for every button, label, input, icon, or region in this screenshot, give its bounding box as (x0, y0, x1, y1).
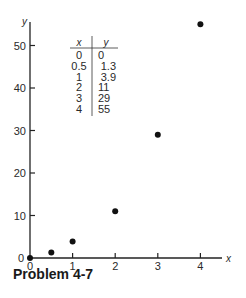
x-tick-label: 2 (112, 260, 118, 270)
y-tick-label: 0 (18, 252, 24, 264)
inset-data-table: xy000.51.313.9211329455 (70, 36, 118, 116)
data-point (197, 21, 203, 27)
data-point (70, 238, 76, 244)
x-axis-label: x (225, 253, 232, 264)
table-cell-x: 4 (76, 103, 82, 115)
y-tick-label: 30 (14, 125, 26, 137)
y-axis-label: y (21, 16, 28, 27)
x-tick-label: 4 (197, 260, 203, 270)
data-point (27, 255, 33, 261)
data-point (48, 249, 54, 255)
axes: yx0102030405001234 (14, 16, 232, 270)
data-point (112, 208, 118, 214)
scatter-plot: yx0102030405001234 xy000.51.313.92113294… (0, 0, 246, 270)
y-tick-label: 50 (14, 40, 26, 52)
y-tick-label: 20 (14, 167, 26, 179)
data-point (155, 132, 161, 138)
figure-caption: Problem 4-7 (13, 266, 93, 282)
data-points (27, 21, 203, 261)
table-header-x: x (76, 37, 83, 48)
table-header-y: y (103, 37, 110, 48)
y-tick-label: 10 (14, 210, 26, 222)
x-tick-label: 3 (155, 260, 161, 270)
y-tick-label: 40 (14, 82, 26, 94)
table-cell-y: 55 (98, 103, 110, 115)
